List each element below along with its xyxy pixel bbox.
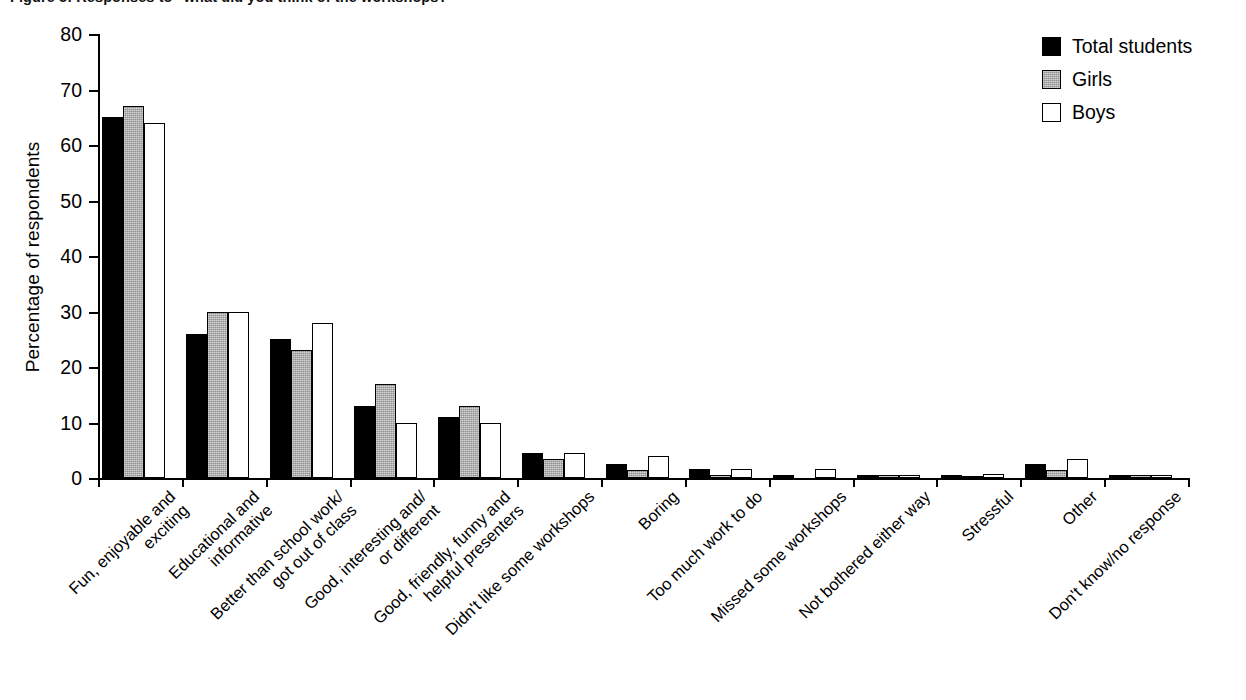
bar <box>731 469 752 478</box>
bar <box>123 106 144 478</box>
y-tick: 30 <box>89 312 98 314</box>
bar <box>962 476 983 479</box>
bar-group <box>522 34 585 478</box>
y-tick: 60 <box>89 145 98 147</box>
bar <box>1109 475 1130 478</box>
legend-item: Total students <box>1042 30 1246 63</box>
bar-group <box>941 34 1004 478</box>
bar-group <box>606 34 669 478</box>
bar <box>857 475 878 478</box>
bar <box>983 474 1004 478</box>
bar <box>480 423 501 479</box>
bar-group <box>270 34 333 478</box>
bar <box>815 469 836 478</box>
bar <box>228 312 249 479</box>
bar-group <box>354 34 417 478</box>
bar <box>878 475 899 478</box>
bar <box>375 384 396 478</box>
y-tick: 20 <box>89 367 98 369</box>
bar <box>102 117 123 478</box>
x-tick <box>266 478 268 487</box>
y-tick: 0 <box>89 478 98 480</box>
y-tick: 50 <box>89 201 98 203</box>
bar <box>354 406 375 478</box>
bar <box>689 469 710 478</box>
bar <box>941 475 962 478</box>
bar <box>1067 459 1088 478</box>
x-tick <box>350 478 352 487</box>
legend-swatch-icon <box>1042 103 1061 122</box>
x-axis-label: Missed some workshops <box>707 487 850 626</box>
x-tick <box>182 478 184 487</box>
y-axis-title: Percentage of respondents <box>22 87 44 427</box>
bar <box>773 475 794 478</box>
bar <box>396 423 417 479</box>
bar-group <box>773 34 836 478</box>
bar <box>144 123 165 478</box>
x-tick <box>853 478 855 487</box>
bar <box>606 464 627 478</box>
bar <box>564 453 585 478</box>
x-axis-line <box>98 478 1188 480</box>
bar <box>312 323 333 478</box>
bar <box>1130 475 1151 478</box>
x-axis-label: Stressful <box>958 487 1018 546</box>
y-tick-label: 50 <box>60 192 82 212</box>
bar <box>270 339 291 478</box>
y-tick-label: 0 <box>71 469 82 489</box>
x-axis-label: Other <box>1059 487 1102 530</box>
bar-group <box>689 34 752 478</box>
bar <box>207 312 228 479</box>
y-tick-label: 60 <box>60 136 82 156</box>
x-tick <box>601 478 603 487</box>
bar <box>1151 475 1172 478</box>
chart-figure: Figure 5: Responses to "what did you thi… <box>0 0 1246 700</box>
y-tick: 10 <box>89 423 98 425</box>
chart-legend: Total studentsGirlsBoys <box>1042 30 1246 129</box>
y-tick: 70 <box>89 90 98 92</box>
bar <box>438 417 459 478</box>
bar-group <box>102 34 165 478</box>
legend-swatch-icon <box>1042 70 1061 89</box>
x-tick <box>685 478 687 487</box>
x-tick <box>936 478 938 487</box>
legend-label: Total students <box>1072 35 1192 58</box>
bar <box>186 334 207 478</box>
bar <box>627 470 648 478</box>
bar <box>1046 470 1067 478</box>
legend-swatch-icon <box>1042 37 1061 56</box>
x-tick <box>1104 478 1106 487</box>
legend-label: Girls <box>1072 68 1112 91</box>
y-tick-label: 10 <box>60 414 82 434</box>
bar <box>710 475 731 478</box>
bar-group <box>438 34 501 478</box>
x-tick <box>517 478 519 487</box>
y-tick-label: 30 <box>60 303 82 323</box>
bar <box>291 350 312 478</box>
y-tick-label: 20 <box>60 358 82 378</box>
y-tick: 40 <box>89 256 98 258</box>
legend-item: Boys <box>1042 96 1246 129</box>
bar <box>1025 464 1046 478</box>
x-axis-label: Fun, enjoyable and exciting <box>65 487 193 613</box>
bar <box>648 456 669 478</box>
x-axis-label: Boring <box>635 487 683 534</box>
legend-label: Boys <box>1072 101 1115 124</box>
y-axis-line <box>98 34 100 478</box>
y-tick-label: 40 <box>60 247 82 267</box>
y-tick: 80 <box>89 34 98 36</box>
plot-area: 01020304050607080 <box>98 34 1188 478</box>
y-tick-label: 80 <box>60 25 82 45</box>
x-tick <box>98 478 100 487</box>
bar-group <box>857 34 920 478</box>
x-tick <box>1188 478 1190 487</box>
x-tick <box>1020 478 1022 487</box>
bar-group <box>186 34 249 478</box>
bar <box>543 459 564 478</box>
x-tick <box>433 478 435 487</box>
bar <box>899 475 920 478</box>
bar <box>522 453 543 478</box>
bar <box>459 406 480 478</box>
x-tick <box>769 478 771 487</box>
figure-title: Figure 5: Responses to "what did you thi… <box>10 0 710 5</box>
